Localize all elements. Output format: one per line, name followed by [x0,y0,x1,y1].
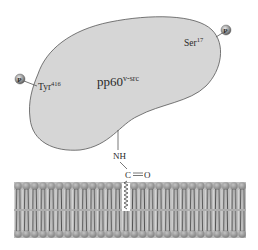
nh-label: NH [113,151,126,161]
lipid-bilayer [14,181,246,238]
svg-text:P: P [223,27,228,35]
amide-linker: NH C O [113,130,151,180]
carbonyl-c-label: C [125,170,131,180]
diagram-canvas: pp60v-src P Tyr416 P Ser17 NH C O [0,0,258,250]
svg-text:P: P [17,76,22,84]
membrane-inner-leaflet [14,210,246,238]
carbonyl-o-label: O [144,170,151,180]
